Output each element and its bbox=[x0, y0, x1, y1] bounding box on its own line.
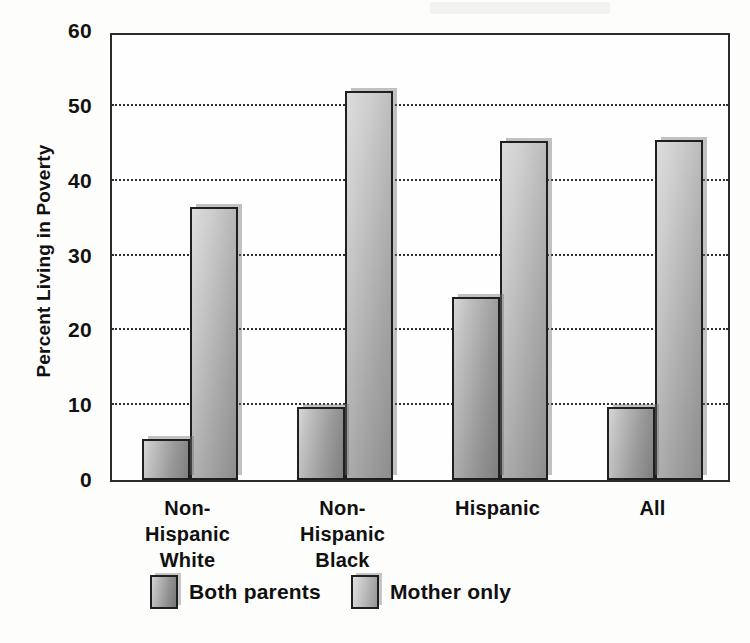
y-axis-tick-0: 0 bbox=[0, 468, 92, 492]
y-axis-tick-60: 60 bbox=[0, 19, 92, 43]
x-axis-label-line: Black bbox=[263, 547, 423, 573]
y-axis-tick-10: 10 bbox=[0, 393, 92, 417]
chart-legend: Both parentsMother only bbox=[150, 575, 511, 609]
y-axis-tick-50: 50 bbox=[0, 94, 92, 118]
bar-0-3 bbox=[607, 407, 655, 480]
bar-1-3 bbox=[655, 140, 703, 480]
legend-swatch-both-parents bbox=[150, 575, 178, 609]
x-axis-label-3: All bbox=[573, 495, 733, 521]
x-axis-label-line: All bbox=[573, 495, 733, 521]
x-axis-label-line: White bbox=[108, 547, 268, 573]
y-axis-tick-40: 40 bbox=[0, 169, 92, 193]
chart-page: Percent Living in Poverty 0102030405060 … bbox=[0, 0, 750, 643]
legend-label-0: Both parents bbox=[189, 580, 321, 604]
x-axis-label-line: Hispanic bbox=[108, 521, 268, 547]
y-axis-tick-30: 30 bbox=[0, 244, 92, 268]
bar-1-2 bbox=[500, 141, 548, 480]
x-axis-label-line: Hispanic bbox=[418, 495, 578, 521]
y-axis-tick-20: 20 bbox=[0, 318, 92, 342]
bar-1-1 bbox=[345, 91, 393, 480]
x-axis-label-line: Non- bbox=[263, 495, 423, 521]
x-axis-label-line: Non- bbox=[108, 495, 268, 521]
x-axis-label-0: Non-HispanicWhite bbox=[108, 495, 268, 573]
gridline-40 bbox=[112, 179, 728, 181]
y-axis-tick-labels: 0102030405060 bbox=[0, 0, 92, 643]
bar-1-0 bbox=[190, 207, 238, 480]
gridline-50 bbox=[112, 104, 728, 106]
bar-0-0 bbox=[142, 439, 190, 480]
page-bleed-artifact bbox=[430, 2, 730, 14]
x-axis-label-1: Non-HispanicBlack bbox=[263, 495, 423, 573]
legend-swatch-mother-only bbox=[351, 575, 379, 609]
x-axis-label-line: Hispanic bbox=[263, 521, 423, 547]
bar-0-2 bbox=[452, 297, 500, 480]
legend-entry-0: Both parents bbox=[150, 575, 321, 609]
x-axis-label-2: Hispanic bbox=[418, 495, 578, 521]
bar-0-1 bbox=[297, 407, 345, 480]
legend-entry-1: Mother only bbox=[351, 575, 511, 609]
legend-label-1: Mother only bbox=[390, 580, 511, 604]
plot-area bbox=[110, 33, 730, 482]
